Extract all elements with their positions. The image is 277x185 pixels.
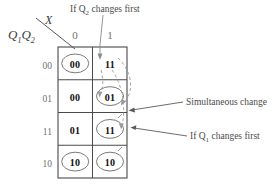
row-header-00: 00: [30, 62, 52, 72]
row-header-01: 01: [30, 95, 52, 105]
column-header-1: 1: [93, 30, 127, 41]
cell-r3c1: 10: [93, 157, 127, 168]
annotation-q1-first: If Q1 changes first: [190, 131, 260, 144]
callout-arrowhead-q1: [131, 125, 137, 130]
cell-r2c0: 01: [58, 125, 92, 136]
annotation-q2-first: If Q2 changes first: [70, 4, 140, 17]
cell-r3c0: 10: [58, 157, 92, 168]
callout-arrowhead-simultaneous: [129, 108, 135, 113]
diagram-vector-layer: [0, 0, 277, 185]
axis-label-state: Q1Q2: [8, 28, 35, 45]
cell-r1c1: 01: [93, 92, 127, 103]
transition-tick-r3c1: [118, 147, 122, 151]
diagram-root: Q1Q2 X 0 1 00 01 11 10 00 11 00 01 01 11…: [0, 0, 277, 185]
transition-tick-r2c1: [118, 114, 122, 118]
cell-r2c1: 11: [93, 125, 127, 136]
cell-r0c1: 11: [93, 59, 127, 70]
dashed-curve-q2-first: [100, 70, 103, 94]
row-header-11: 11: [30, 128, 52, 138]
annotation-simultaneous: Simultaneous change: [186, 97, 267, 107]
row-header-10: 10: [30, 160, 52, 170]
cell-r1c0: 00: [58, 92, 92, 103]
column-header-0: 0: [58, 30, 92, 41]
callout-leader-simultaneous: [132, 102, 183, 110]
cell-r0c0: 00: [58, 59, 92, 70]
callout-leader-q1: [134, 128, 187, 136]
axis-label-input: X: [45, 14, 52, 26]
